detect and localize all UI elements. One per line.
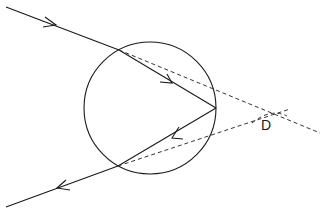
raindrop-diagram: D	[0, 0, 320, 219]
deviation-angle-label: D	[261, 117, 271, 133]
sphere-circle	[84, 42, 216, 174]
arrow-icon-outgoing	[57, 180, 70, 190]
refracted-ray	[119, 50, 216, 108]
incoming-extension-dashed	[119, 50, 320, 133]
outgoing-ray	[6, 166, 118, 207]
reflected-ray	[118, 108, 216, 166]
incoming-ray	[6, 7, 119, 50]
